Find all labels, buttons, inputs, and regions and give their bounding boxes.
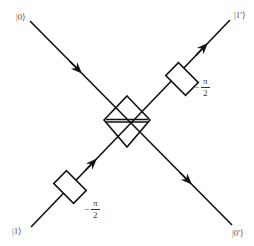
minus-sign: − [84,205,89,214]
port-label-output-0: |0′⟩ [232,229,244,238]
diagram-canvas [0,0,254,246]
phase-denominator: 2 [203,88,208,98]
phase-numerator: π [91,199,100,210]
port-label-input-1: |1⟩ [12,227,22,236]
minus-sign: − [194,83,199,92]
phase-denominator: 2 [93,210,98,220]
port-label-input-0: |0⟩ [16,13,26,22]
phase-label-lower: − π 2 [84,199,100,220]
phase-label-upper: − π 2 [194,77,210,98]
phase-numerator: π [201,77,210,88]
port-label-output-1: |1′⟩ [234,11,246,20]
